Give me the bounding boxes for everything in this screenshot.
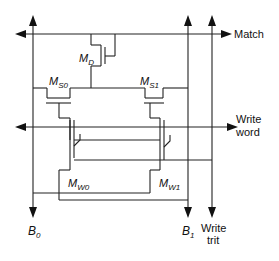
label-b0: B0 (28, 224, 41, 240)
label-mw0: MW0 (68, 177, 90, 192)
write-word-line (15, 123, 238, 131)
label-ms0: MS0 (49, 75, 69, 90)
transistor-mw1 (33, 118, 170, 193)
label-mw1: MW1 (159, 177, 180, 192)
match-line (15, 30, 232, 38)
transistor-md (91, 34, 115, 88)
label-b1: B1 (182, 224, 194, 240)
circuit-diagram: MD MS0 MS1 MW0 MW1 B0 B1 Match Write wor… (0, 0, 279, 261)
label-write-trit-2: trit (207, 234, 219, 246)
write-trit-line (208, 15, 216, 218)
bitline-b0 (29, 15, 37, 218)
transistor-ms1 (144, 88, 188, 118)
label-write-word-2: word (235, 126, 260, 138)
label-md: MD (79, 52, 94, 67)
bitline-b1 (184, 15, 192, 218)
label-match: Match (234, 28, 264, 40)
transistor-ms0 (33, 88, 71, 140)
label-write-word-1: Write (236, 113, 261, 125)
label-write-trit-1: Write (201, 222, 226, 234)
